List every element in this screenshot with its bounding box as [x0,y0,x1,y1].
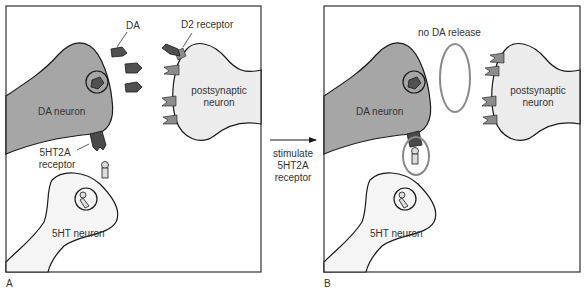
bound-serotonin-icon [412,148,419,165]
transition-arrow: stimulate 5HT2A receptor [270,140,316,183]
panel-a: DA D2 receptor postsynaptic neuron DA ne… [6,6,261,289]
5ht-neuron-label: 5HT neuron [52,228,105,239]
postsynaptic-label-2: neuron [522,97,553,108]
5ht2a-label-2: receptor [39,159,76,170]
da-label: DA [126,20,140,31]
no-da-release-label: no DA release [418,27,481,38]
arrow-label-2: 5HT2A [277,160,308,171]
da-neuron-label: DA neuron [38,106,85,117]
panel-b: DA neuron no DA release postsynaptic neu… [324,6,580,289]
arrow-label-3: receptor [275,172,312,183]
serotonin-molecule-icon [102,162,109,179]
diagram-canvas: DA D2 receptor postsynaptic neuron DA ne… [0,0,586,292]
5ht2a-label-1: 5HT2A [39,147,70,158]
postsynaptic-label-1: postsynaptic [510,85,566,96]
5ht-neuron-label: 5HT neuron [370,228,423,239]
d2-receptor-label: D2 receptor [181,19,234,30]
panel-a-letter: A [6,278,13,289]
arrow-label-1: stimulate [273,148,313,159]
postsynaptic-label-1: postsynaptic [191,85,247,96]
postsynaptic-label-2: neuron [203,97,234,108]
panel-b-letter: B [324,278,331,289]
da-neuron-label: DA neuron [356,106,403,117]
